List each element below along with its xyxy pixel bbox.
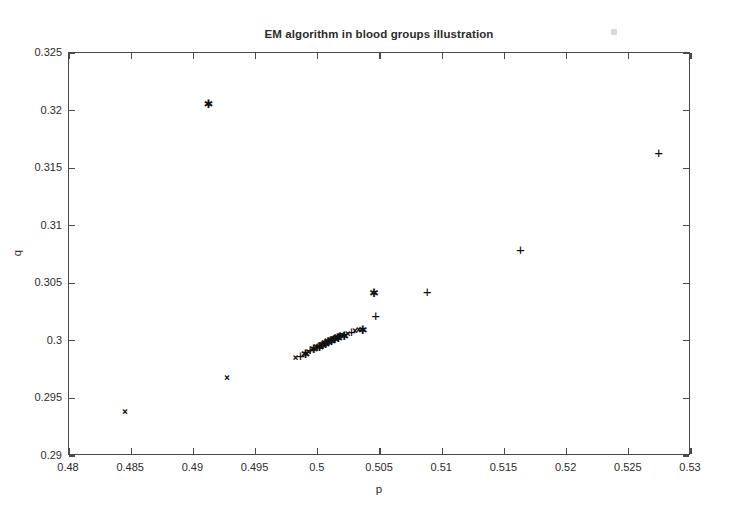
x-axis-tick-top	[193, 53, 194, 59]
y-axis-tick	[69, 283, 75, 284]
x-axis-tick	[255, 448, 256, 454]
x-axis-tick-top	[566, 53, 567, 59]
data-point-marker: ×	[329, 334, 335, 344]
x-axis-tick	[442, 448, 443, 454]
x-tick-label: 0.525	[614, 461, 642, 473]
data-point-marker: +	[423, 285, 431, 299]
data-point-marker: +	[347, 325, 355, 339]
data-point-marker: +	[329, 332, 337, 346]
data-point-marker: ×	[331, 334, 337, 344]
data-point-marker: ✱	[333, 329, 342, 344]
y-axis-tick-right	[683, 455, 689, 456]
x-tick-label: 0.49	[182, 461, 203, 473]
data-point-marker: ✱	[369, 285, 378, 300]
data-point-marker: +	[313, 340, 321, 354]
y-axis-tick-right	[683, 52, 689, 53]
y-tick-label: 0.295	[34, 391, 62, 403]
y-axis-tick	[69, 225, 75, 226]
data-point-marker: ×	[224, 373, 230, 383]
data-point-marker: ✱	[321, 335, 330, 350]
x-tick-label: 0.505	[365, 461, 393, 473]
x-axis-tick	[379, 448, 380, 454]
data-point-marker: ×	[313, 342, 319, 352]
y-axis-tick-right	[683, 225, 689, 226]
y-tick-label: 0.3	[47, 334, 62, 346]
data-point-marker: ✱	[309, 341, 318, 356]
data-point-marker: ×	[317, 340, 323, 350]
x-axis-tick	[131, 448, 132, 454]
x-axis-tick-top	[690, 53, 691, 59]
data-point-marker: +	[371, 309, 379, 323]
data-point-marker: ✱	[358, 321, 367, 336]
scan-artifact-speck	[611, 29, 617, 35]
data-point-marker: ✱	[327, 332, 336, 347]
x-tick-label: 0.51	[430, 461, 451, 473]
y-tick-label: 0.305	[34, 276, 62, 288]
data-point-marker: ×	[327, 335, 333, 345]
x-axis-tick	[68, 448, 69, 454]
x-tick-label: 0.515	[490, 461, 518, 473]
data-point-marker: ✱	[204, 95, 213, 110]
y-axis-tick	[69, 52, 75, 53]
data-point-marker: ×	[122, 407, 128, 417]
data-point-marker: ×	[345, 329, 351, 339]
data-point-marker: ×	[332, 333, 338, 343]
x-tick-label: 0.495	[241, 461, 269, 473]
y-axis-tick	[69, 398, 75, 399]
y-tick-label: 0.32	[41, 104, 62, 116]
y-axis-tick-right	[683, 283, 689, 284]
y-tick-label: 0.31	[41, 219, 62, 231]
y-axis-tick-right	[683, 110, 689, 111]
x-axis-tick-top	[379, 53, 380, 59]
y-tick-label: 0.315	[34, 161, 62, 173]
data-point-marker: +	[296, 349, 304, 363]
y-axis-tick	[69, 110, 75, 111]
x-axis-tick	[566, 448, 567, 454]
data-point-marker: +	[516, 243, 524, 257]
data-point-marker: ×	[292, 353, 298, 363]
x-axis-tick	[193, 448, 194, 454]
data-point-marker: +	[320, 336, 328, 350]
data-point-marker: ✱	[318, 337, 327, 352]
plot-area: ×××××××××××××××××××✱✱✱✱✱✱✱✱✱✱✱✱✱++++++++…	[68, 52, 690, 455]
x-axis-tick	[628, 448, 629, 454]
data-point-marker: +	[306, 343, 314, 357]
x-tick-label: 0.485	[116, 461, 144, 473]
x-axis-tick	[317, 448, 318, 454]
data-point-marker: ×	[324, 336, 330, 346]
data-point-marker: ×	[336, 331, 342, 341]
data-point-marker: +	[654, 146, 662, 160]
x-axis-tick-top	[255, 53, 256, 59]
data-point-marker: ✱	[330, 331, 339, 346]
data-point-marker: ×	[352, 326, 358, 336]
y-axis-tick	[69, 168, 75, 169]
y-axis-tick	[69, 340, 75, 341]
data-point-marker: ×	[337, 331, 343, 341]
data-point-marker: ×	[339, 330, 345, 340]
data-point-marker: ×	[305, 347, 311, 357]
data-point-marker: ×	[334, 332, 340, 342]
data-point-marker: ✱	[323, 334, 332, 349]
x-axis-label: p	[68, 483, 690, 495]
data-point-marker: ✱	[301, 345, 310, 360]
data-point-marker: +	[317, 338, 325, 352]
x-axis-tick-top	[131, 53, 132, 59]
figure-canvas: EM algorithm in blood groups illustratio…	[0, 0, 734, 517]
y-tick-label: 0.325	[34, 46, 62, 58]
x-tick-label: 0.5	[309, 461, 324, 473]
x-axis-tick-top	[628, 53, 629, 59]
x-axis-tick-top	[442, 53, 443, 59]
x-axis-tick-top	[68, 53, 69, 59]
y-axis-tick	[69, 455, 75, 456]
x-tick-label: 0.52	[555, 461, 576, 473]
x-axis-tick	[504, 448, 505, 454]
x-axis-tick-top	[504, 53, 505, 59]
data-point-marker: ×	[356, 325, 362, 335]
y-axis-label: q	[11, 250, 23, 256]
y-tick-label: 0.29	[41, 449, 62, 461]
data-point-marker: ✱	[339, 327, 348, 342]
x-tick-label: 0.53	[679, 461, 700, 473]
y-axis-tick-right	[683, 340, 689, 341]
x-axis-tick	[690, 448, 691, 454]
data-points-layer: ×××××××××××××××××××✱✱✱✱✱✱✱✱✱✱✱✱✱++++++++…	[69, 53, 689, 454]
